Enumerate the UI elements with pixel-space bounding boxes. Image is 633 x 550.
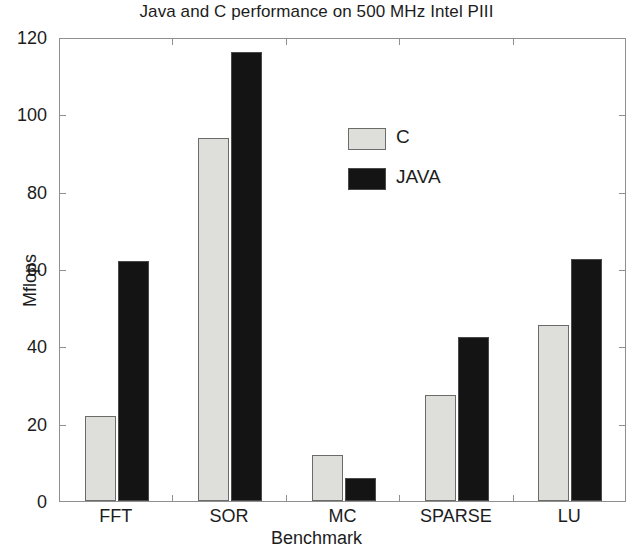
legend-swatch-java-icon (348, 168, 386, 190)
y-tick-mark (619, 270, 626, 271)
y-tick-mark (619, 115, 626, 116)
y-tick-mark (59, 347, 66, 348)
x-tick-mark (513, 495, 514, 502)
y-tick-mark (59, 270, 66, 271)
chart-figure: Java and C performance on 500 MHz Intel … (0, 0, 633, 550)
x-tick-mark (172, 38, 173, 45)
bar-lu-java (571, 259, 602, 501)
y-tick-mark (619, 425, 626, 426)
bars-layer (60, 39, 625, 501)
x-axis-label: Benchmark (0, 528, 633, 549)
y-tick-label: 120 (3, 28, 47, 49)
x-tick-mark (399, 495, 400, 502)
y-axis-label: Mflops (20, 226, 41, 336)
y-tick-label: 20 (3, 414, 47, 435)
legend-entry-java: JAVA (348, 162, 498, 202)
x-tick-label: LU (558, 506, 581, 527)
x-tick-mark (286, 495, 287, 502)
bar-lu-c (538, 325, 569, 501)
bar-sparse-c (425, 395, 456, 501)
legend-label-c: C (396, 126, 410, 148)
plot-area (59, 38, 626, 502)
y-tick-mark (59, 115, 66, 116)
y-tick-mark (59, 425, 66, 426)
chart-legend: C JAVA (348, 122, 498, 202)
x-tick-mark (172, 495, 173, 502)
legend-swatch-c-icon (348, 128, 386, 150)
bar-sor-java (231, 52, 262, 501)
legend-entry-c: C (348, 122, 498, 162)
x-tick-label: MC (329, 506, 357, 527)
x-tick-mark (513, 38, 514, 45)
x-tick-label: SOR (210, 506, 249, 527)
y-tick-label: 80 (3, 182, 47, 203)
x-tick-label: FFT (99, 506, 132, 527)
bar-mc-java (345, 478, 376, 501)
legend-label-java: JAVA (396, 166, 441, 188)
bar-mc-c (312, 455, 343, 501)
bar-fft-java (118, 261, 149, 501)
y-tick-label: 100 (3, 105, 47, 126)
x-tick-mark (399, 38, 400, 45)
bar-fft-c (85, 416, 116, 501)
x-tick-mark (286, 38, 287, 45)
y-tick-mark (59, 193, 66, 194)
y-tick-label: 60 (3, 260, 47, 281)
bar-sparse-java (458, 337, 489, 501)
bar-sor-c (198, 138, 229, 501)
y-tick-mark (619, 347, 626, 348)
y-tick-label: 40 (3, 337, 47, 358)
x-tick-label: SPARSE (420, 506, 492, 527)
y-tick-label: 0 (3, 492, 47, 513)
chart-title: Java and C performance on 500 MHz Intel … (0, 2, 633, 22)
y-tick-mark (619, 193, 626, 194)
